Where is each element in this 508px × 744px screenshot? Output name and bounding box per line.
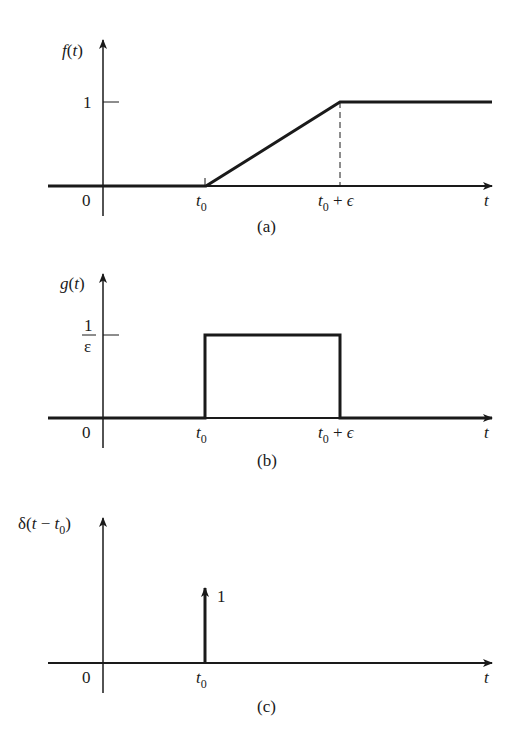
panel-c: δ(t − t0) 1 0 t0 t (c) bbox=[18, 514, 492, 716]
panel-a: f(t) 1 0 t0 t0 + ϵ t (a) bbox=[48, 40, 492, 236]
ylabel-b: g(t) bbox=[60, 274, 85, 293]
ylabel-a: f(t) bbox=[62, 41, 83, 60]
caption-a: (a) bbox=[257, 217, 276, 236]
ytick-label-b-den: ε bbox=[84, 337, 91, 356]
xtick-label-t0-a: t0 bbox=[196, 191, 207, 214]
xtick-label-t0-c: t0 bbox=[196, 668, 207, 691]
figure-canvas: f(t) 1 0 t0 t0 + ϵ t (a) g(t) 1 ε 0 t0 t… bbox=[0, 0, 508, 744]
caption-b: (b) bbox=[257, 451, 277, 470]
xlabel-b: t bbox=[484, 423, 490, 442]
xtick-label-t0eps-a: t0 + ϵ bbox=[318, 191, 355, 214]
ytick-label-a: 1 bbox=[83, 93, 92, 112]
xlabel-c: t bbox=[484, 668, 490, 687]
xlabel-a: t bbox=[484, 191, 490, 210]
xtick-label-t0eps-b: t0 + ϵ bbox=[318, 423, 355, 446]
pulse-curve bbox=[48, 335, 492, 418]
ramp-curve bbox=[48, 102, 492, 186]
origin-label-a: 0 bbox=[82, 191, 91, 210]
impulse-label: 1 bbox=[217, 587, 226, 606]
origin-label-c: 0 bbox=[82, 668, 91, 687]
ylabel-c: δ(t − t0) bbox=[18, 514, 71, 537]
xtick-label-t0-b: t0 bbox=[196, 423, 207, 446]
caption-c: (c) bbox=[257, 697, 276, 716]
panel-b: g(t) 1 ε 0 t0 t0 + ϵ t (b) bbox=[48, 274, 492, 470]
ytick-label-b-num: 1 bbox=[84, 316, 93, 335]
origin-label-b: 0 bbox=[82, 423, 91, 442]
